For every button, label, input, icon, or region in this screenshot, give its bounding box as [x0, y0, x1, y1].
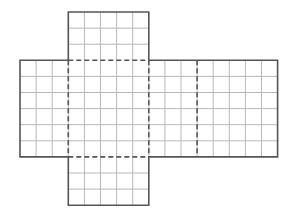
- grid-net-diagram: [0, 0, 290, 213]
